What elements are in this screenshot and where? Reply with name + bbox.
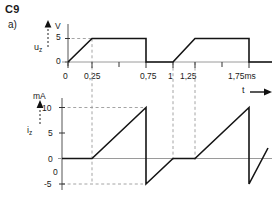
voltage-y-arrow-icon — [45, 20, 52, 47]
voltage-xtick-marks — [68, 62, 249, 68]
waveform-plot-svg — [0, 0, 277, 199]
voltage-axes-group — [45, 20, 272, 68]
time-axis-arrow-icon — [250, 88, 272, 95]
voltage-trace — [68, 39, 272, 63]
figure-container: C9 a) V 5 0 uz 0 0,25 0,75 1 1,25 1,75ms… — [0, 0, 277, 199]
current-y-arrow-icon — [37, 100, 44, 124]
current-trace — [62, 108, 268, 185]
